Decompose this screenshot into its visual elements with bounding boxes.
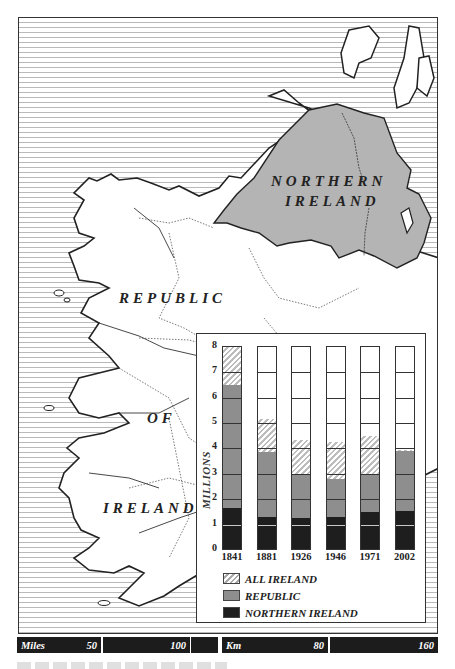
gridline xyxy=(223,499,241,500)
y-tick-label: 4 xyxy=(207,440,217,451)
segment-northern-ireland xyxy=(223,508,241,550)
gridline xyxy=(396,448,414,449)
y-tick-label: 6 xyxy=(207,390,217,401)
figure-caption-fragment xyxy=(17,662,227,669)
segment-northern-ireland xyxy=(258,517,276,550)
map-label-republic: REPUBLIC xyxy=(119,290,226,307)
x-tick-label: 2002 xyxy=(390,551,420,562)
scale-km-0-80: Km 80 xyxy=(222,637,328,653)
scale-miles-50-100: 100 xyxy=(103,637,190,653)
gridline xyxy=(258,423,276,424)
map-label-northern: NORTHERN xyxy=(271,173,386,190)
gridline xyxy=(396,499,414,500)
gridline xyxy=(223,448,241,449)
gridline xyxy=(396,474,414,475)
gridline xyxy=(258,525,276,526)
gridline xyxy=(327,372,345,373)
gridline xyxy=(361,423,379,424)
segment-northern-ireland xyxy=(396,511,414,550)
legend-item-republic: REPUBLIC xyxy=(223,587,358,604)
segment-northern-ireland xyxy=(292,518,310,550)
gridline xyxy=(223,423,241,424)
x-tick-label: 1971 xyxy=(355,551,385,562)
gridline xyxy=(361,525,379,526)
hatched-swatch-icon xyxy=(223,573,240,584)
y-tick-label: 3 xyxy=(207,466,217,477)
gridline xyxy=(327,398,345,399)
scale-miles-tail xyxy=(191,637,218,653)
gridline xyxy=(223,398,241,399)
y-tick-label: 7 xyxy=(207,364,217,375)
gridline xyxy=(361,474,379,475)
gridline xyxy=(361,372,379,373)
y-tick-label: 2 xyxy=(207,491,217,502)
map-label-of: OF xyxy=(147,410,176,427)
y-tick-label: 5 xyxy=(207,415,217,426)
x-tick-label: 1881 xyxy=(252,551,282,562)
bar-1926 xyxy=(291,346,311,550)
gridline xyxy=(258,499,276,500)
gridline xyxy=(223,372,241,373)
scale-km-80-160: 160 xyxy=(330,637,438,653)
gridline xyxy=(258,474,276,475)
y-tick-label: 0 xyxy=(207,542,217,553)
map-label-northern-ireland: IRELAND xyxy=(285,193,380,210)
gridline xyxy=(292,448,310,449)
population-chart: MILLIONS 012345678 184118811926194619712… xyxy=(196,333,426,623)
segment-northern-ireland xyxy=(327,517,345,550)
gridline xyxy=(258,448,276,449)
bar-1881 xyxy=(257,346,277,550)
x-tick-label: 1841 xyxy=(217,551,247,562)
gridline xyxy=(361,448,379,449)
legend-item-all-ireland: ALL IRELAND xyxy=(223,570,358,587)
gridline xyxy=(292,372,310,373)
gridline xyxy=(292,423,310,424)
gridline xyxy=(361,398,379,399)
gridline xyxy=(292,398,310,399)
gridline xyxy=(327,525,345,526)
gridline xyxy=(223,474,241,475)
gridline xyxy=(292,474,310,475)
gridline xyxy=(223,525,241,526)
gridline xyxy=(292,525,310,526)
map-label-ireland: IRELAND xyxy=(103,500,198,517)
x-tick-label: 1926 xyxy=(286,551,316,562)
gridline xyxy=(396,525,414,526)
bar-1946 xyxy=(326,346,346,550)
bar-2002 xyxy=(395,346,415,550)
scale-miles-0-50: Miles 50 xyxy=(17,637,101,653)
black-swatch-icon xyxy=(223,607,240,618)
y-tick-label: 8 xyxy=(207,339,217,350)
segment-northern-ireland xyxy=(361,512,379,550)
gridline xyxy=(361,499,379,500)
gridline xyxy=(327,448,345,449)
chart-legend: ALL IRELAND REPUBLIC NORTHERN IRELAND xyxy=(223,570,358,621)
bar-1971 xyxy=(360,346,380,550)
gridline xyxy=(396,372,414,373)
y-tick-label: 1 xyxy=(207,517,217,528)
gridline xyxy=(258,398,276,399)
x-tick-label: 1946 xyxy=(321,551,351,562)
bar-1841 xyxy=(222,346,242,550)
legend-item-northern-ireland: NORTHERN IRELAND xyxy=(223,604,358,621)
gridline xyxy=(327,474,345,475)
gridline xyxy=(327,423,345,424)
gridline xyxy=(327,499,345,500)
grey-swatch-icon xyxy=(223,590,240,601)
gridline xyxy=(292,499,310,500)
gridline xyxy=(396,398,414,399)
gridline xyxy=(258,372,276,373)
gridline xyxy=(396,423,414,424)
